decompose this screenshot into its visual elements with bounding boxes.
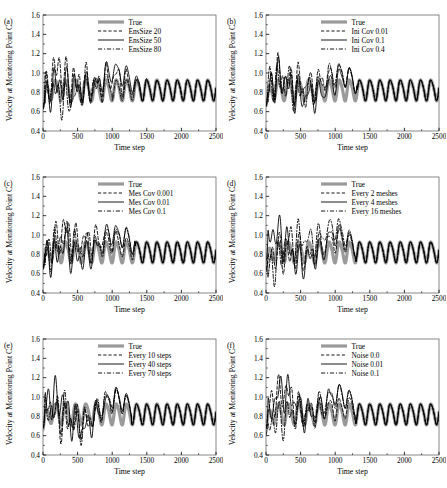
plot-canvas: (a)0.40.60.81.01.21.41.60500100015002000… — [0, 0, 223, 162]
y-tick-label: 1.6 — [254, 173, 263, 182]
legend-label: Every 40 steps — [129, 360, 172, 369]
y-tick-label: 1.4 — [254, 30, 263, 39]
legend-label: True — [129, 180, 143, 189]
legend-label: Every 70 steps — [129, 369, 172, 378]
x-tick-label: 500 — [295, 294, 306, 303]
legend-label: Noise 0.1 — [352, 369, 380, 378]
plot-canvas: (e)0.40.60.81.01.21.41.60500100015002000… — [0, 324, 223, 486]
legend-label: Ini Cov 0.01 — [352, 27, 389, 36]
y-axis-title: Velocity at Monitoring Point C — [228, 187, 237, 284]
legend-label: True — [129, 18, 143, 27]
y-axis-title: Velocity at Monitoring Point C — [228, 25, 237, 122]
y-tick-label: 1.2 — [254, 373, 263, 382]
legend-label: Every 2 meshes — [352, 189, 398, 198]
y-axis-title: Velocity at Monitoring Point C — [5, 187, 14, 284]
x-tick-label: 500 — [295, 132, 306, 141]
panel-label: (d) — [227, 179, 236, 188]
panel-label: (f) — [227, 341, 235, 350]
y-tick-label: 1.6 — [254, 11, 263, 20]
y-tick-label: 0.8 — [254, 250, 263, 259]
y-tick-label: 0.4 — [31, 451, 40, 460]
plot-canvas: (f)0.40.60.81.01.21.41.60500100015002000… — [223, 324, 446, 486]
x-tick-label: 2000 — [174, 132, 189, 141]
x-tick-label: 500 — [72, 456, 83, 465]
x-tick-label: 1000 — [105, 294, 120, 303]
x-tick-label: 1500 — [140, 456, 155, 465]
x-tick-label: 2500 — [432, 456, 446, 465]
y-tick-label: 1.4 — [254, 192, 263, 201]
legend-label: True — [352, 18, 366, 27]
panel-a: (a)0.40.60.81.01.21.41.60500100015002000… — [0, 0, 223, 162]
y-tick-label: 1.0 — [31, 69, 40, 78]
x-tick-label: 0 — [41, 456, 45, 465]
x-tick-label: 0 — [41, 294, 45, 303]
y-tick-label: 1.4 — [31, 192, 40, 201]
legend-label: EnsSize 80 — [129, 45, 162, 54]
x-tick-label: 0 — [264, 132, 268, 141]
y-tick-label: 0.6 — [254, 269, 263, 278]
y-tick-label: 0.8 — [254, 88, 263, 97]
y-tick-label: 0.4 — [254, 451, 263, 460]
x-tick-label: 2000 — [397, 456, 412, 465]
legend-label: Ini Cov 0.4 — [352, 45, 385, 54]
x-axis-title: Time step — [337, 467, 368, 476]
x-axis-title: Time step — [114, 467, 145, 476]
x-tick-label: 2000 — [174, 294, 189, 303]
y-tick-label: 1.0 — [254, 393, 263, 402]
panel-label: (c) — [4, 179, 13, 188]
y-tick-label: 0.4 — [31, 127, 40, 136]
plot-canvas: (c)0.40.60.81.01.21.41.60500100015002000… — [0, 162, 223, 324]
y-tick-label: 0.8 — [31, 412, 40, 421]
y-tick-label: 1.2 — [31, 373, 40, 382]
y-tick-label: 1.2 — [254, 211, 263, 220]
x-tick-label: 1500 — [363, 456, 378, 465]
legend-label: True — [352, 180, 366, 189]
x-tick-label: 2500 — [432, 294, 446, 303]
y-tick-label: 1.0 — [254, 69, 263, 78]
y-axis-title: Velocity at Monitoring Point C — [5, 349, 14, 446]
y-tick-label: 1.2 — [31, 211, 40, 220]
y-tick-label: 0.4 — [31, 289, 40, 298]
x-tick-label: 2500 — [209, 456, 223, 465]
legend-label: Ini Cov 0.1 — [352, 36, 385, 45]
legend-label: Mes Cov 0.1 — [129, 207, 167, 216]
y-tick-label: 0.6 — [254, 107, 263, 116]
plot-canvas: (b)0.40.60.81.01.21.41.60500100015002000… — [223, 0, 446, 162]
y-tick-label: 1.6 — [254, 335, 263, 344]
y-tick-label: 1.0 — [254, 231, 263, 240]
x-tick-label: 1000 — [105, 456, 120, 465]
y-tick-label: 0.6 — [31, 269, 40, 278]
panel-label: (e) — [4, 341, 13, 350]
y-tick-label: 1.6 — [31, 335, 40, 344]
x-tick-label: 500 — [72, 132, 83, 141]
x-tick-label: 1000 — [105, 132, 120, 141]
x-tick-label: 0 — [264, 294, 268, 303]
x-tick-label: 1500 — [363, 294, 378, 303]
legend-label: Mes Cov 0.001 — [129, 189, 174, 198]
panel-e: (e)0.40.60.81.01.21.41.60500100015002000… — [0, 324, 223, 486]
legend-label: Every 16 meshes — [352, 207, 402, 216]
panel-d: (d)0.40.60.81.01.21.41.60500100015002000… — [223, 162, 446, 324]
x-tick-label: 1000 — [328, 132, 343, 141]
y-axis-title: Velocity at Monitoring Point C — [5, 25, 14, 122]
y-tick-label: 0.6 — [254, 431, 263, 440]
x-tick-label: 0 — [264, 456, 268, 465]
legend-label: Every 10 steps — [129, 351, 172, 360]
y-tick-label: 1.6 — [31, 173, 40, 182]
y-tick-label: 1.4 — [31, 30, 40, 39]
panel-b: (b)0.40.60.81.01.21.41.60500100015002000… — [223, 0, 446, 162]
x-axis-title: Time step — [114, 305, 145, 314]
y-tick-label: 1.2 — [254, 49, 263, 58]
x-tick-label: 2000 — [174, 456, 189, 465]
x-tick-label: 1000 — [328, 294, 343, 303]
y-tick-label: 0.6 — [31, 431, 40, 440]
panel-f: (f)0.40.60.81.01.21.41.60500100015002000… — [223, 324, 446, 486]
x-tick-label: 2000 — [397, 294, 412, 303]
x-tick-label: 2500 — [209, 294, 223, 303]
x-axis-title: Time step — [114, 143, 145, 152]
legend-label: True — [352, 342, 366, 351]
y-tick-label: 1.4 — [254, 354, 263, 363]
y-tick-label: 0.4 — [254, 289, 263, 298]
y-tick-label: 1.4 — [31, 354, 40, 363]
panel-label: (a) — [4, 17, 13, 26]
